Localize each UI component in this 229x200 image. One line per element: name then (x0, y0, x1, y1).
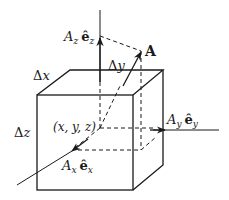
a-vector-label: A (144, 43, 157, 59)
delta-x-label: Δx (33, 68, 50, 83)
delta-y-label: Δy (108, 58, 125, 73)
ay-label: Ayêy (166, 112, 199, 129)
volume-element-diagram: Azêz A Δy Δx Δz (x, y, z) Ayêy Axêx (0, 0, 229, 200)
cube-front-face (37, 95, 133, 190)
ax-arrow (72, 139, 88, 151)
ax-label: Axêx (61, 158, 93, 175)
delta-z-label: Δz (14, 125, 30, 140)
point-label: (x, y, z) (53, 120, 96, 134)
a-vector-arrow (123, 52, 141, 86)
az-label: Azêz (63, 29, 94, 46)
